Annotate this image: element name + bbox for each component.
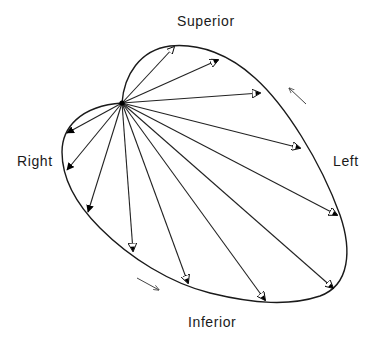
label-superior: Superior — [177, 13, 235, 29]
upper-right-direction-arrow — [289, 88, 306, 104]
loop-outline — [62, 46, 347, 303]
label-inferior: Inferior — [188, 314, 236, 330]
vector-arrow-7 — [122, 103, 265, 300]
vector-arrow-5 — [122, 103, 337, 215]
label-left: Left — [333, 153, 359, 169]
origin-point — [119, 100, 124, 105]
label-right: Right — [17, 153, 53, 169]
vector-arrow-9 — [122, 103, 133, 251]
vector-loop-diagram — [0, 0, 380, 344]
vector-arrow-6 — [122, 103, 333, 288]
vector-arrow-4 — [122, 103, 300, 148]
vector-group — [67, 47, 337, 300]
vector-arrow-3 — [122, 93, 260, 103]
lower-left-direction-arrow — [137, 278, 159, 290]
vector-arrow-11 — [67, 103, 122, 170]
